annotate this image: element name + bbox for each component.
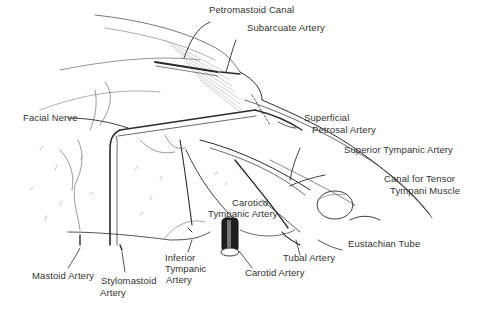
label-inferior-tympanic-artery-line3: Artery xyxy=(166,274,192,285)
label-subarcuate-artery: Subarcuate Artery xyxy=(247,22,325,33)
label-canal-tensor-tympani-line2: Tympani Muscle xyxy=(390,185,460,196)
label-petromastoid-canal: Petromastoid Canal xyxy=(209,4,294,15)
label-tubal-artery: Tubal Artery xyxy=(283,252,335,263)
label-superior-tympanic-artery: Superior Tympanic Artery xyxy=(344,144,453,155)
label-superficial-petrosal-artery-line2: Petrosal Artery xyxy=(312,124,376,135)
label-carotico-tympanic-artery-line2: Tympanic Artery xyxy=(208,208,278,219)
label-inferior-tympanic-artery-line1: Inferior xyxy=(165,252,195,263)
anatomy-diagram: Petromastoid Canal Subarcuate Artery Fac… xyxy=(0,0,483,310)
label-facial-nerve: Facial Nerve xyxy=(23,112,78,123)
label-mastoid-artery: Mastoid Artery xyxy=(32,270,94,281)
label-canal-tensor-tympani-line1: Canal for Tensor xyxy=(384,173,455,184)
label-carotid-artery: Carotid Artery xyxy=(245,267,304,278)
label-stylomastoid-artery-line1: Stylomastoid xyxy=(101,275,157,286)
label-eustachian-tube: Eustachian Tube xyxy=(348,238,420,249)
label-inferior-tympanic-artery-line2: Tympanic xyxy=(165,263,206,274)
illustration-drawing xyxy=(0,0,483,310)
label-stylomastoid-artery-line2: Artery xyxy=(100,287,126,298)
label-superficial-petrosal-artery-line1: Superficial xyxy=(304,112,349,123)
label-carotico-tympanic-artery-line1: Carotico xyxy=(232,197,268,208)
